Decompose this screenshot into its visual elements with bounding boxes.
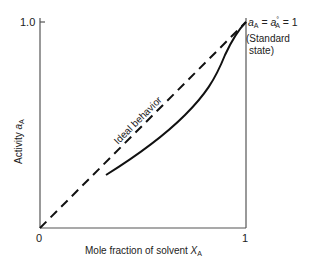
x-axis-sub: A — [197, 250, 202, 257]
y-axis-label: Activity aA — [13, 119, 25, 164]
y-tick-label-top: 1.0 — [20, 16, 35, 28]
x-tick-label-origin: 0 — [36, 232, 42, 244]
standard-state-line2: state) — [249, 45, 274, 56]
x-tick-label-end: 1 — [242, 232, 248, 244]
x-axis-label-text: Mole fraction of solvent — [85, 245, 191, 256]
ideal-behavior-label: Ideal behavior — [112, 94, 165, 147]
std-eq1: = — [259, 16, 271, 28]
standard-state-line1: (Standard — [246, 33, 290, 44]
ideal-behavior-line — [40, 22, 246, 228]
y-axis-label-text: Activity — [13, 130, 24, 164]
real-solution-curve — [106, 22, 246, 175]
activity-chart: 1.0 0 1 Mole fraction of solvent XA Acti… — [0, 0, 309, 263]
y-axis-sub: A — [18, 119, 25, 124]
standard-state-equation: aA = a°A = 1 — [248, 16, 298, 29]
std-eq2: = 1 — [280, 16, 298, 28]
x-axis-label: Mole fraction of solvent XA — [85, 245, 202, 257]
